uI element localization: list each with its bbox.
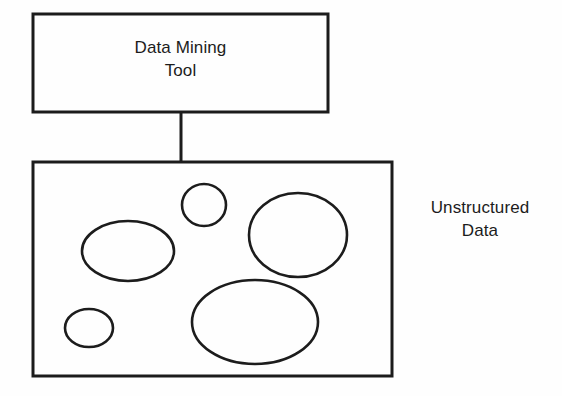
blob-left-ellipse[interactable] — [82, 221, 174, 281]
unstructured-data-label: Unstructured Data — [404, 196, 556, 242]
blob-bottom-large-ellipse[interactable] — [192, 280, 318, 364]
data-box-rectangle[interactable] — [33, 162, 392, 376]
blob-bottom-left-small[interactable] — [65, 309, 113, 347]
unstructured-data-blobs — [65, 184, 347, 364]
blob-right-large-circle[interactable] — [249, 193, 347, 277]
diagram-canvas: Data Mining Tool Unstructured Data — [0, 0, 562, 396]
data-box-shape[interactable] — [33, 162, 392, 376]
tool-box-label: Data Mining Tool — [33, 36, 328, 82]
blob-top-small-circle[interactable] — [182, 184, 226, 226]
